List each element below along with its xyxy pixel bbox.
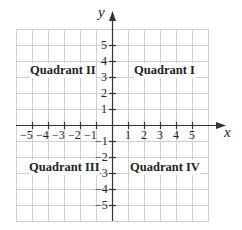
quadrant-2-label: Quadrant II xyxy=(30,63,96,78)
coordinate-grid xyxy=(0,0,242,230)
y-tick-label: 4 xyxy=(101,54,107,69)
x-tick-label: −5 xyxy=(20,128,33,143)
y-tick-label: −4 xyxy=(95,182,108,197)
quadrant-4-label: Quadrant IV xyxy=(130,160,200,175)
x-tick-label: 3 xyxy=(157,128,163,143)
y-tick-label: −1 xyxy=(95,134,108,149)
y-tick-label: −5 xyxy=(95,198,108,213)
y-tick-label: 2 xyxy=(101,86,107,101)
y-axis-arrow-icon xyxy=(109,11,116,21)
quadrant-1-label: Quadrant I xyxy=(134,63,195,78)
x-tick-label: 5 xyxy=(189,128,195,143)
x-tick-label: −3 xyxy=(52,128,65,143)
x-tick-label: 1 xyxy=(125,128,131,143)
y-tick-label: 3 xyxy=(101,70,107,85)
x-tick-label: 2 xyxy=(141,128,147,143)
x-axis-label: x xyxy=(224,124,231,141)
quadrant-3-label: Quadrant III xyxy=(29,160,100,175)
axes xyxy=(16,16,222,221)
y-axis-label: y xyxy=(98,4,105,21)
x-tick-label: −2 xyxy=(68,128,81,143)
x-tick-label: 4 xyxy=(173,128,179,143)
y-tick-label: 1 xyxy=(101,102,107,117)
y-tick-label: 5 xyxy=(101,38,107,53)
x-tick-label: −4 xyxy=(36,128,49,143)
